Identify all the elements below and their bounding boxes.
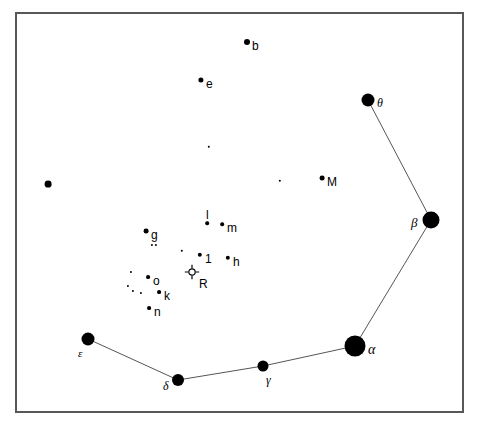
star-label-theta: θ — [377, 97, 383, 109]
star-dot-unlabeled-u-west — [45, 181, 52, 188]
star-label-k: k — [164, 290, 170, 302]
star-dot-alpha — [345, 336, 366, 357]
star-dot-b — [244, 39, 250, 45]
star-label-delta: δ — [163, 380, 169, 392]
star-label-n: n — [154, 306, 161, 318]
star-label-alpha: α — [368, 343, 375, 357]
star-label-e: e — [206, 78, 213, 90]
star-dot-beta — [423, 212, 440, 229]
star-label-o: o — [153, 275, 160, 287]
star-label-M: M — [327, 176, 337, 188]
star-map-frame — [15, 12, 464, 413]
star-label-g: g — [151, 229, 158, 241]
star-label-h: h — [233, 256, 240, 268]
star-label-beta: β — [411, 216, 417, 229]
star-dot-n — [147, 306, 151, 310]
star-label-b: b — [252, 40, 259, 52]
star-chart-canvas: αβγδεθbeMgml1hoknR — [0, 0, 479, 426]
star-dot-theta — [362, 94, 375, 107]
star-dot-epsilon — [82, 333, 95, 346]
star-dot-k — [157, 290, 161, 294]
star-dot-M — [320, 176, 325, 181]
star-label-l: l — [206, 209, 209, 221]
star-dot-m — [220, 222, 224, 226]
star-dot-delta — [172, 374, 184, 386]
star-dot-g — [144, 229, 149, 234]
star-label-R: R — [199, 278, 208, 290]
star-label-one: 1 — [205, 253, 212, 265]
star-dot-o — [146, 275, 150, 279]
star-dot-gamma — [258, 361, 269, 372]
star-label-gamma: γ — [266, 374, 271, 386]
star-label-epsilon: ε — [78, 348, 82, 359]
star-label-m: m — [227, 222, 237, 234]
